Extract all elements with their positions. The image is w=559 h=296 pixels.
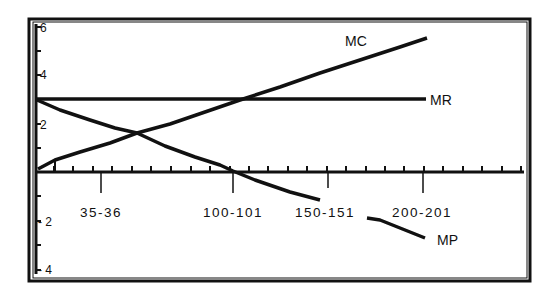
mp-label: MP [437,232,458,248]
mp-line-segment-2 [367,218,425,238]
y-tick-neg4: - 4 [38,263,52,277]
mr-label: MR [430,92,452,108]
x-tick-150-151: 150-151 [295,205,355,220]
mc-label: MC [345,33,367,49]
economics-chart: 6 4 2 - 2 - 4 [0,0,559,296]
mc-line [38,38,427,169]
y-tick-2: 2 [40,118,47,132]
mp-line [37,100,320,200]
y-tick-6: 6 [40,21,47,35]
x-tick-35-36: 35-36 [80,205,122,220]
y-axis [36,24,41,274]
x-tick-100-101: 100-101 [203,205,263,220]
y-tick-4: 4 [40,68,47,82]
y-tick-neg2: - 2 [38,215,52,229]
x-tick-200-201: 200-201 [392,205,452,220]
